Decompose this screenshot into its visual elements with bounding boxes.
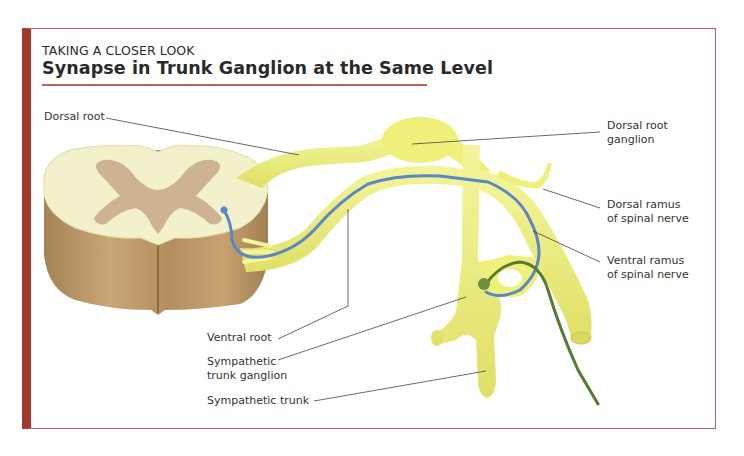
label-ventral-ramus-line1: Ventral ramus (607, 254, 684, 268)
label-sympathetic-trunk-ganglion-line2: trunk ganglion (207, 369, 287, 383)
preganglionic-soma (221, 207, 228, 214)
label-dorsal-root-ganglion-line1: Dorsal root (607, 119, 668, 133)
anatomy-illustration (0, 0, 744, 456)
label-dorsal-ramus-line1: Dorsal ramus (607, 198, 680, 212)
ventral-root (240, 166, 490, 272)
spinal-cord (44, 145, 268, 315)
label-ventral-root: Ventral root (207, 331, 272, 345)
label-dorsal-ramus-line2: of spinal nerve (607, 212, 689, 226)
label-dorsal-root-ganglion-line2: ganglion (607, 133, 655, 147)
label-sympathetic-trunk: Sympathetic trunk (207, 394, 309, 408)
postganglionic-soma (478, 278, 490, 290)
label-sympathetic-trunk-ganglion-line1: Sympathetic (207, 355, 276, 369)
label-ventral-ramus-line2: of spinal nerve (607, 268, 689, 282)
label-dorsal-root: Dorsal root (44, 110, 105, 124)
